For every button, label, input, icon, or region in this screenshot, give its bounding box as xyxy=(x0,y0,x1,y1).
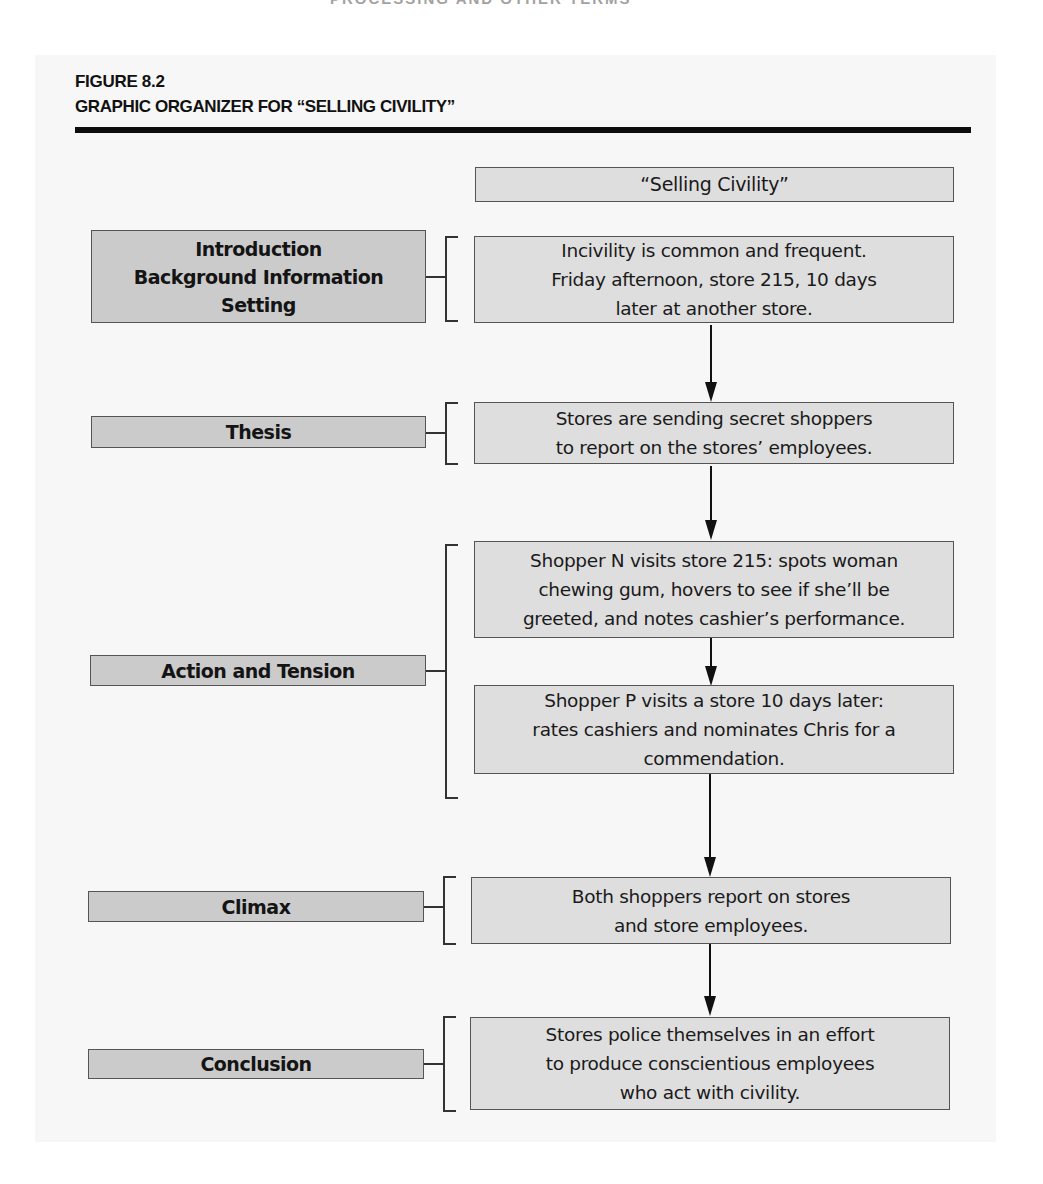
connector-action xyxy=(426,670,446,672)
bracket-conclusion xyxy=(443,1016,445,1111)
bracket-tick xyxy=(445,544,458,546)
down-arrow-icon xyxy=(700,944,720,1016)
label-introduction: Introduction Background Information Sett… xyxy=(91,230,426,323)
connector-climax xyxy=(424,906,444,908)
title-rule xyxy=(75,127,971,133)
connector-introduction xyxy=(426,276,446,278)
down-arrow-icon xyxy=(700,774,720,877)
running-head: PROCESSING AND OTHER TERMS xyxy=(330,0,730,8)
label-action-text: Action and Tension xyxy=(161,657,355,685)
bracket-tick xyxy=(445,797,458,799)
content-conclusion: Stores police themselves in an effort to… xyxy=(470,1017,950,1110)
bracket-introduction xyxy=(445,236,447,322)
content-thesis-text: Stores are sending secret shoppers to re… xyxy=(556,404,873,462)
content-action-2: Shopper P visits a store 10 days later: … xyxy=(474,685,954,774)
label-introduction-text: Introduction Background Information Sett… xyxy=(134,235,384,319)
content-climax: Both shoppers report on stores and store… xyxy=(471,877,951,944)
bracket-tick xyxy=(443,1110,456,1112)
down-arrow-icon xyxy=(701,466,721,540)
bracket-thesis xyxy=(445,402,447,464)
label-thesis: Thesis xyxy=(91,416,426,448)
content-introduction: Incivility is common and frequent. Frida… xyxy=(474,236,954,323)
label-conclusion: Conclusion xyxy=(88,1049,424,1079)
down-arrow-icon xyxy=(701,325,721,402)
label-action-and-tension: Action and Tension xyxy=(90,655,426,686)
bracket-climax xyxy=(443,876,445,944)
content-introduction-text: Incivility is common and frequent. Frida… xyxy=(551,236,876,323)
bracket-tick xyxy=(445,320,458,322)
bracket-tick xyxy=(445,402,458,404)
figure-number: FIGURE 8.2 xyxy=(75,72,165,92)
bracket-action xyxy=(445,544,447,798)
content-thesis: Stores are sending secret shoppers to re… xyxy=(474,402,954,464)
label-climax-text: Climax xyxy=(222,893,291,921)
bracket-tick xyxy=(443,1016,456,1018)
label-conclusion-text: Conclusion xyxy=(200,1050,311,1078)
content-climax-text: Both shoppers report on stores and store… xyxy=(572,882,850,940)
bracket-tick xyxy=(445,236,458,238)
bracket-tick xyxy=(445,463,458,465)
content-action-1: Shopper N visits store 215: spots woman … xyxy=(474,541,954,638)
bracket-tick xyxy=(443,876,456,878)
label-thesis-text: Thesis xyxy=(226,418,292,446)
connector-conclusion xyxy=(424,1063,444,1065)
essay-title-box: “Selling Civility” xyxy=(475,167,954,202)
connector-thesis xyxy=(426,432,446,434)
content-action-1-text: Shopper N visits store 215: spots woman … xyxy=(523,546,905,633)
content-action-2-text: Shopper P visits a store 10 days later: … xyxy=(532,686,895,773)
down-arrow-icon xyxy=(701,638,721,685)
figure-title: GRAPHIC ORGANIZER FOR “SELLING CIVILITY” xyxy=(75,97,455,117)
essay-title: “Selling Civility” xyxy=(640,170,788,199)
bracket-tick xyxy=(443,943,456,945)
content-conclusion-text: Stores police themselves in an effort to… xyxy=(546,1020,875,1107)
label-climax: Climax xyxy=(88,891,424,922)
